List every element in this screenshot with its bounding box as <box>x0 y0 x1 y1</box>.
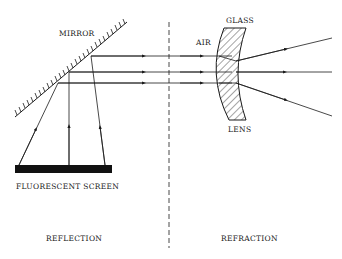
fluorescent-screen <box>15 165 112 173</box>
air-label: AIR <box>195 38 211 47</box>
reflection-caption: REFLECTION <box>46 234 102 243</box>
screen-label: FLUORESCENT SCREEN <box>16 182 119 191</box>
glass-label: GLASS <box>226 16 254 25</box>
glass-lens <box>216 28 246 120</box>
horizontal-rays <box>58 56 232 83</box>
optics-diagram: MIRROR FLUORESCENT SCREEN GLASS AIR LENS <box>0 0 342 259</box>
mirror-label: MIRROR <box>59 29 95 38</box>
lens-label: LENS <box>228 125 251 134</box>
refraction-caption: REFRACTION <box>221 234 278 243</box>
